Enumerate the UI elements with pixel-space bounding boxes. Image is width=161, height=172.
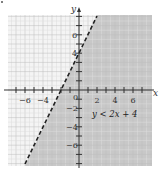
inequality-graph: x y 0 −6−424664−2−4−6 y < 2x + 4 xyxy=(0,0,161,172)
y-tick-label: 6 xyxy=(72,31,77,40)
x-tick-label: 2 xyxy=(95,96,100,105)
y-tick-label: −4 xyxy=(66,123,78,132)
x-axis-label: x xyxy=(153,88,158,98)
x-tick-label: 4 xyxy=(113,96,118,105)
x-tick-label: −4 xyxy=(37,96,49,105)
y-tick-label: 4 xyxy=(72,49,77,58)
y-tick-label: −6 xyxy=(66,141,78,150)
bullet-mark xyxy=(1,1,3,3)
y-axis-arrow-icon xyxy=(77,7,81,12)
x-tick-label: 6 xyxy=(131,96,136,105)
x-tick-label: −6 xyxy=(19,96,31,105)
y-axis-label: y xyxy=(70,4,77,14)
origin-label: 0 xyxy=(73,93,78,102)
y-tick-label: −2 xyxy=(66,104,78,113)
inequality-label: y < 2x + 4 xyxy=(91,109,137,119)
